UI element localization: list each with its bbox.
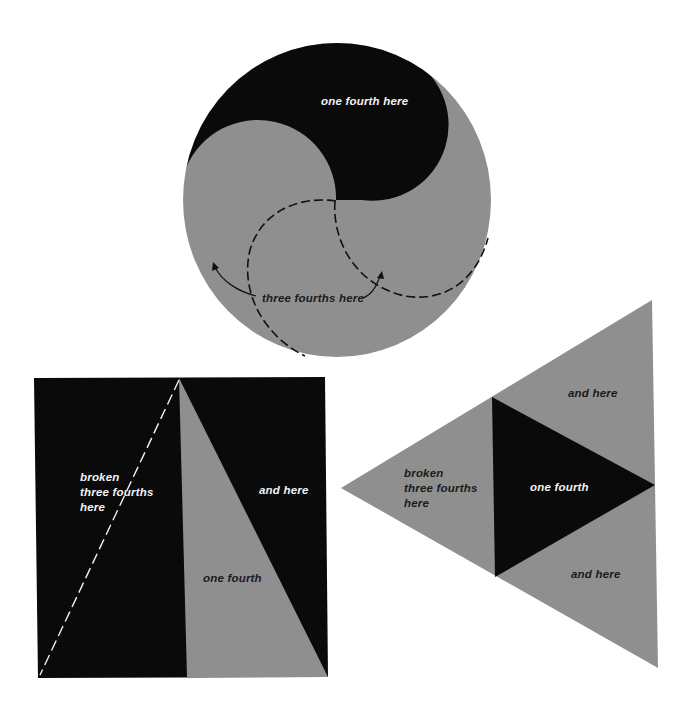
fractions-diagram: one fourth here three fourths here broke… (0, 0, 682, 715)
circle-label-three-fourths: three fourths here (262, 292, 364, 304)
triangle-figure: and here broken three fourths here one f… (341, 300, 658, 668)
circle-label-one-fourth: one fourth here (321, 95, 409, 107)
triangle-label-and-here-bottom: and here (571, 568, 621, 580)
circle-figure: one fourth here three fourths here (183, 42, 491, 357)
square-label-one-fourth: one fourth (203, 572, 262, 584)
square-label-and-here: and here (259, 484, 309, 496)
triangle-label-one-fourth: one fourth (530, 481, 589, 493)
triangle-label-and-here-top: and here (568, 387, 618, 399)
square-figure: broken three fourths here and here one f… (34, 377, 328, 678)
